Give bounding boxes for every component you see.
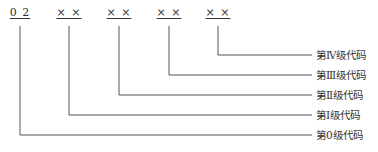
label-level-0: 第0级代码 bbox=[316, 129, 363, 141]
label-level-4: 第Ⅳ级代码 bbox=[316, 49, 367, 61]
connector-level-3 bbox=[169, 26, 312, 75]
connector-level-2 bbox=[119, 26, 312, 95]
code-level-4: × × bbox=[206, 6, 231, 19]
connector-level-4 bbox=[218, 26, 312, 55]
connector-level-0 bbox=[20, 26, 312, 135]
label-level-2: 第Ⅱ级代码 bbox=[316, 89, 363, 101]
code-level-0: 0 2 bbox=[10, 6, 31, 19]
code-level-3: × × bbox=[157, 6, 182, 19]
connector-level-1 bbox=[69, 26, 312, 115]
code-level-1: × × bbox=[57, 6, 82, 19]
label-level-3: 第Ⅲ级代码 bbox=[316, 69, 366, 81]
label-level-1: 第Ⅰ级代码 bbox=[316, 109, 360, 121]
code-level-2: × × bbox=[107, 6, 132, 19]
